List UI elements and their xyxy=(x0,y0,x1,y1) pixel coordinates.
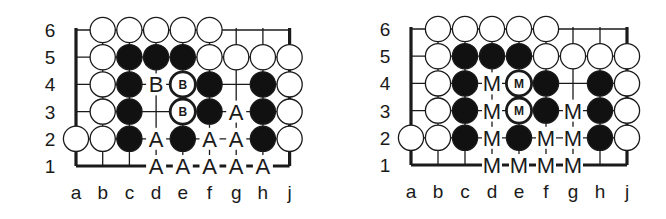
black-stone xyxy=(506,44,531,69)
column-coordinate-label: g xyxy=(568,181,579,202)
column-coordinate-label: h xyxy=(595,181,606,202)
white-stone xyxy=(506,16,531,41)
white-stone xyxy=(425,71,450,96)
white-stone xyxy=(614,71,639,96)
white-stone xyxy=(614,44,639,69)
black-stone xyxy=(452,125,477,150)
stone-mark-label: M xyxy=(514,104,524,118)
column-coordinate-label: b xyxy=(433,181,444,202)
column-coordinate-label: j xyxy=(624,181,629,202)
point-label: M xyxy=(483,71,501,96)
point-label: M xyxy=(564,99,582,124)
white-stone xyxy=(587,44,612,69)
point-label: M xyxy=(483,99,501,124)
white-stone xyxy=(425,98,450,123)
row-coordinate-label: 5 xyxy=(380,46,391,67)
black-stone xyxy=(452,71,477,96)
black-stone xyxy=(533,98,558,123)
white-stone xyxy=(614,125,639,150)
white-stone xyxy=(398,125,423,150)
black-stone xyxy=(533,71,558,96)
black-stone xyxy=(479,44,504,69)
white-stone xyxy=(533,16,558,41)
white-stone xyxy=(425,16,450,41)
black-stone xyxy=(452,44,477,69)
black-stone xyxy=(587,125,612,150)
black-stone xyxy=(587,98,612,123)
black-stone xyxy=(452,98,477,123)
point-label: M xyxy=(483,153,501,178)
point-label: M xyxy=(564,153,582,178)
point-label: M xyxy=(537,126,555,151)
point-label: M xyxy=(483,126,501,151)
point-label: M xyxy=(510,153,528,178)
row-coordinate-label: 1 xyxy=(380,155,391,176)
row-coordinate-label: 3 xyxy=(380,101,391,122)
row-coordinate-label: 4 xyxy=(380,73,391,94)
white-stone xyxy=(614,98,639,123)
point-label: M xyxy=(564,126,582,151)
white-stone xyxy=(560,44,585,69)
row-coordinate-label: 2 xyxy=(380,128,391,149)
go-diagram-right: 654321abcdefghjMMMMMMMMMMMM xyxy=(0,0,333,219)
white-stone xyxy=(425,125,450,150)
white-stone xyxy=(425,44,450,69)
white-stone xyxy=(479,16,504,41)
black-stone xyxy=(587,71,612,96)
column-coordinate-label: a xyxy=(406,181,417,202)
stone-mark-label: M xyxy=(514,77,524,91)
white-stone xyxy=(533,44,558,69)
row-coordinate-label: 6 xyxy=(380,19,391,40)
go-board-right-svg: 654321abcdefghjMMMMMMMMMMMM xyxy=(0,0,666,219)
point-label: M xyxy=(537,153,555,178)
black-stone xyxy=(506,125,531,150)
column-coordinate-label: e xyxy=(514,181,525,202)
column-coordinate-label: f xyxy=(543,181,549,202)
column-coordinate-label: c xyxy=(460,181,470,202)
white-stone xyxy=(452,16,477,41)
column-coordinate-label: d xyxy=(487,181,498,202)
